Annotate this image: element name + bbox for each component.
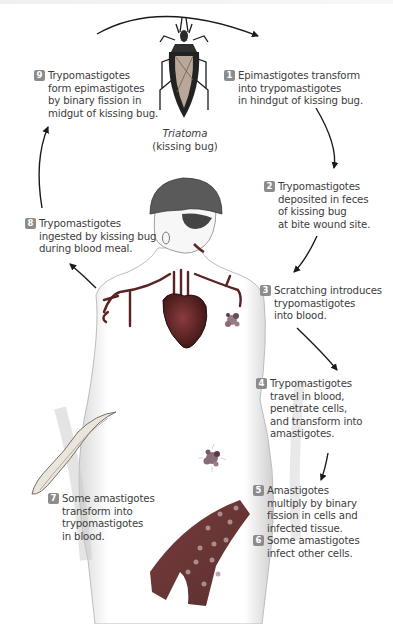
arrow-4-to-5 [321,453,328,480]
step-badge: 4 [256,378,267,389]
bug-common-name: (kissing bug) [152,141,218,154]
bug-genus: Triatoma [152,128,218,141]
arrow-2-to-3 [294,236,317,272]
step-1: 1 Epimastigotes transform into trypomast… [224,70,363,108]
step-4: 4 Trypomastigotes travel in blood, penet… [256,378,362,441]
bug-caption: Triatoma (kissing bug) [152,128,218,153]
step-9: 9 Trypomastigotes form epimastigotes by … [34,70,158,120]
step-5: 5 Amastigotes multiply by binary fission… [253,485,358,535]
step-6: 6 Some amastigotes infect other cells. [253,535,360,560]
kissing-bug-icon [160,18,208,118]
arrow-8-to-9 [39,127,48,208]
arrow-8-body [70,264,96,288]
step-badge: 6 [253,535,264,546]
arrow-9-to-1 [97,16,258,36]
step-badge: 3 [260,285,271,296]
step-7: 7 Some amastigotes transform into trypom… [48,493,155,543]
step-badge: 2 [264,181,275,192]
hair [150,178,222,214]
step-8: 8 Trypomastigotes ingested by kissing bu… [25,218,156,256]
step-badge: 5 [253,485,264,496]
arrow-3-to-4 [297,328,337,370]
step-badge: 7 [48,493,59,504]
step-badge: 1 [224,70,235,81]
step-2: 2 Trypomastigotes deposited in feces of … [264,181,370,231]
step-badge: 8 [25,218,36,229]
step-badge: 9 [34,70,45,81]
step-3: 3 Scratching introduces trypomastigotes … [260,285,382,323]
arrow-1-to-2 [316,108,335,168]
